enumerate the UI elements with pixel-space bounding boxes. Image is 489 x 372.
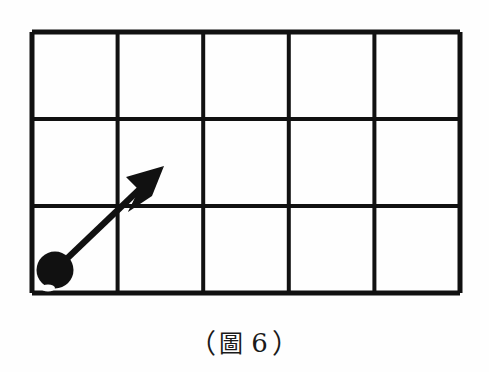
- ball-body: [37, 252, 74, 289]
- caption-cjk-character: 圖: [217, 330, 246, 358]
- velocity-arrow: [55, 166, 164, 270]
- ball: [37, 252, 74, 292]
- figure-caption: （圖6）: [189, 329, 300, 356]
- grid-vertical-lines: [32, 32, 460, 293]
- ball-highlight: [41, 285, 55, 292]
- caption-open-paren: （: [189, 328, 217, 359]
- caption-close-paren: ）: [272, 328, 300, 359]
- caption-number: 6: [246, 328, 272, 358]
- caption-row: （圖6）: [0, 318, 489, 366]
- grid-horizontal-lines: [32, 32, 460, 293]
- grid-diagram-canvas: [0, 0, 489, 372]
- figure-container: （圖6）: [0, 0, 489, 372]
